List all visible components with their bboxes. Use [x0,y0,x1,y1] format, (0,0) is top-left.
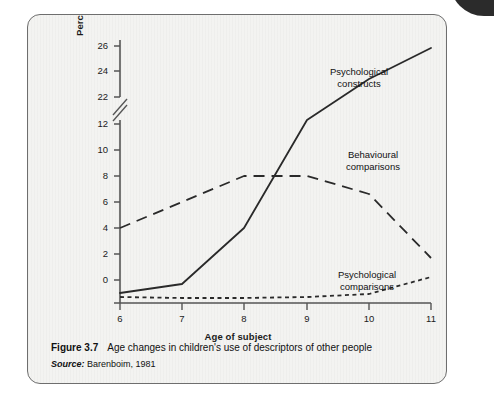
source-text: Barenboim, 1981 [87,359,156,369]
figure-caption-line: Figure 3.7Age changes in children's use … [51,342,431,353]
y-axis-title-text: Percentage of statements made [74,14,85,36]
figure-source-line: Source: Barenboim, 1981 [51,359,431,369]
series-annotation-behavioural-comparisons-line1: Behaviouralcomparisons [318,149,428,172]
y-axis-break-icon [113,99,127,121]
series-line-behavioural-comparisons [120,176,431,258]
page-edge-corner [450,0,494,16]
y-tick-label-6: 6 [84,196,108,207]
x-tick-label-10: 10 [359,313,379,324]
y-tick-label-22: 22 [84,91,108,102]
x-tick-label-7: 7 [172,313,192,324]
figure-caption-block: Figure 3.7Age changes in children's use … [51,342,431,369]
series-annotation-psychological-comparisons: Psychologicalcomparisons [308,269,426,292]
y-axis-ticks [114,46,120,303]
y-tick-label-12: 12 [84,118,108,129]
y-tick-label-8: 8 [84,170,108,181]
series-annotation-behavioural-comparisons: Behaviouralcomparisons [318,149,428,172]
figure-caption-text: Age changes in children's use of descrip… [107,342,372,353]
figure-panel: Percentage of statements made Age of sub… [27,14,447,384]
y-tick-label-10: 10 [84,144,108,155]
source-label: Source: [51,359,85,369]
y-tick-label-0: 0 [84,274,108,285]
series-annotation-psychological-constructs: Psychologicalconstructs [304,66,414,89]
y-tick-label-2: 2 [84,248,108,259]
y-tick-label-4: 4 [84,222,108,233]
x-tick-label-9: 9 [297,313,317,324]
x-tick-label-11: 11 [421,313,441,324]
series-annotation-psychological-comparisons-line1: Psychologicalcomparisons [308,269,426,292]
x-axis-ticks [120,303,431,310]
x-tick-label-8: 8 [234,313,254,324]
figure-number: Figure 3.7 [51,342,98,353]
x-tick-label-6: 6 [110,313,130,324]
y-tick-label-26: 26 [84,40,108,51]
chart-plot-area: Percentage of statements made Age of sub… [28,15,447,333]
x-axis-title: Age of subject [28,331,447,342]
y-tick-label-24: 24 [84,65,108,76]
series-annotation-psychological-constructs-line1: Psychologicalconstructs [304,66,414,89]
